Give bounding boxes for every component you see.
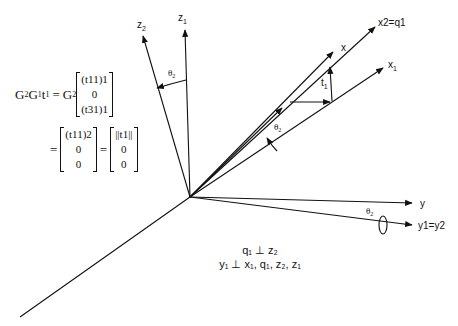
y1-y2-axis: [190, 197, 412, 225]
y-axis: [190, 197, 412, 203]
x-axis: [190, 52, 333, 197]
label-y: y: [420, 198, 425, 209]
equation-line-2: = (t11)2 0 0 = ||t1|| 0 0: [50, 127, 138, 172]
x2-q1-axis: [190, 27, 375, 197]
z1-axis: [185, 30, 190, 197]
label-x2-q1: x2=q1: [378, 17, 406, 28]
label-y1-y2: y1=y2: [418, 220, 445, 231]
z2-axis: [143, 36, 190, 197]
label-x: x: [341, 42, 346, 53]
caption-line-2: y₁ ⊥ x₁, q₁, z₂, z₁: [175, 257, 345, 271]
matrix-3: ||t1|| 0 0: [110, 127, 137, 172]
t1-vertical: [330, 67, 332, 101]
caption-line-1: q₁ ⊥ z₂: [175, 243, 345, 257]
theta-arc-z: [157, 80, 186, 88]
orthogonality-caption: q₁ ⊥ z₂ y₁ ⊥ x₁, q₁, z₂, z₁: [175, 243, 345, 271]
label-theta-z: θ2: [168, 68, 175, 79]
label-theta-y: θ2: [366, 206, 373, 217]
equation-line-1: G2 G1 t1 = G2 (t11)1 0 (t31)1: [15, 72, 113, 117]
axis-line-lower-left: [20, 197, 190, 317]
label-z2: z2: [137, 19, 146, 32]
matrix-1: (t11)1 0 (t31)1: [76, 72, 113, 117]
label-x1: x1: [388, 59, 397, 72]
rotation-arrow-icon: [379, 216, 387, 234]
label-theta-x: θ2: [274, 122, 281, 133]
x1-axis: [190, 68, 383, 197]
label-t1: t1: [321, 77, 328, 90]
label-z1: z1: [178, 12, 187, 25]
matrix-2: (t11)2 0 0: [60, 127, 96, 172]
proj-vector: [190, 108, 282, 197]
